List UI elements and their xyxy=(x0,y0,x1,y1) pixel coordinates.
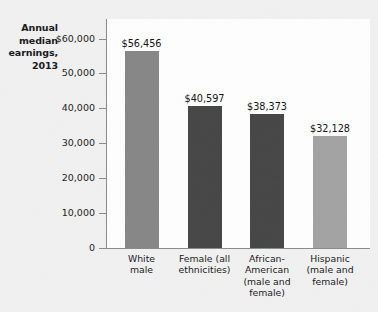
x-axis-category-line: ethnicities) xyxy=(172,264,238,275)
x-axis-category-label: Whitemale xyxy=(109,253,175,276)
x-axis-category-line: American xyxy=(234,264,300,275)
bar-value-label: $32,128 xyxy=(290,123,370,134)
x-axis-category-line: Hispanic xyxy=(297,253,363,264)
y-axis-tick xyxy=(99,248,106,249)
y-axis-line xyxy=(106,19,107,249)
x-axis-category-line: male xyxy=(109,264,175,275)
x-axis-line xyxy=(100,248,370,249)
y-axis-title: Annual median earnings, 2013 xyxy=(2,22,58,72)
x-axis-category-line: female) xyxy=(234,287,300,298)
x-axis-category-line: (male and xyxy=(297,264,363,275)
x-axis-category-line: (male and xyxy=(234,276,300,287)
bar[interactable] xyxy=(250,114,284,248)
x-axis-category-line: Female (all xyxy=(172,253,238,264)
x-axis-category-label: Female (allethnicities) xyxy=(172,253,238,276)
y-axis-tick xyxy=(99,178,106,179)
x-axis-category-line: African- xyxy=(234,253,300,264)
y-axis-tick-label: 40,000 xyxy=(40,103,95,113)
bar[interactable] xyxy=(188,106,222,248)
y-axis-tick-label: $60,000 xyxy=(40,34,95,44)
bar-value-label: $38,373 xyxy=(227,101,307,112)
y-axis-title-line: earnings, xyxy=(2,47,58,60)
bar[interactable] xyxy=(313,136,347,248)
x-axis-category-label: Hispanic(male andfemale) xyxy=(297,253,363,287)
bar[interactable] xyxy=(125,51,159,248)
y-axis-tick xyxy=(99,143,106,144)
x-axis-category-line: White xyxy=(109,253,175,264)
bar-value-label: $56,456 xyxy=(102,38,182,49)
y-axis-tick xyxy=(99,108,106,109)
y-axis-tick-label: 50,000 xyxy=(40,68,95,78)
bar-chart-figure: Annual median earnings, 2013 $60,00050,0… xyxy=(0,0,378,312)
y-axis-tick-label: 0 xyxy=(40,243,95,253)
y-axis-tick xyxy=(99,213,106,214)
x-axis-category-line: female) xyxy=(297,276,363,287)
y-axis-tick xyxy=(99,73,106,74)
y-axis-tick-label: 10,000 xyxy=(40,208,95,218)
y-axis-tick-label: 20,000 xyxy=(40,173,95,183)
y-axis-tick-label: 30,000 xyxy=(40,138,95,148)
x-axis-category-label: African-American(male andfemale) xyxy=(234,253,300,299)
